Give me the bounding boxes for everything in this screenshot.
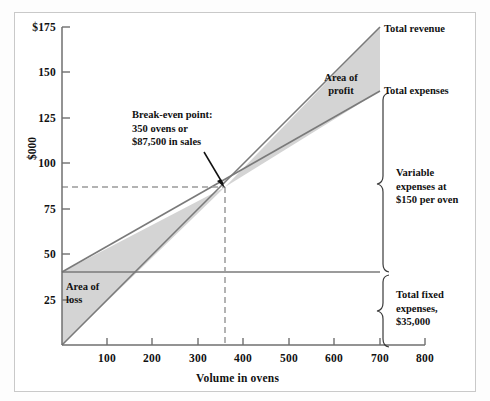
y-tick-label-150: 150 (12, 66, 56, 78)
area-of-loss-line1: Area of (66, 281, 118, 294)
variable-expenses-line3: $150 per oven (396, 193, 458, 207)
y-tick-label-25: 25 (12, 294, 56, 306)
breakeven-callout-arrow-shaft (204, 152, 223, 184)
total-fixed-expenses-label: Total fixed expenses, $35,000 (396, 288, 444, 329)
breakeven-callout-line2: 350 ovens or (132, 122, 213, 136)
x-tick-label-100: 100 (87, 352, 127, 364)
area-of-loss-label: Area of loss (66, 281, 118, 306)
x-tick-label-500: 500 (269, 352, 309, 364)
area-of-profit-line2: profit (312, 85, 370, 98)
x-axis-title: Volume in ovens (196, 372, 279, 384)
variable-expenses-brace (377, 93, 389, 272)
y-tick-label-75: 75 (12, 203, 56, 215)
total-fixed-expenses-line2: expenses, (396, 302, 444, 316)
y-axis-title: $000 (26, 137, 38, 160)
x-axis-ticks (107, 338, 425, 345)
x-tick-label-600: 600 (314, 352, 354, 364)
x-tick-label-400: 400 (223, 352, 263, 364)
variable-expenses-label: Variable expenses at $150 per oven (396, 166, 458, 207)
breakeven-callout: Break-even point: 350 ovens or $87,500 i… (132, 108, 213, 149)
total-fixed-expenses-brace (377, 275, 389, 347)
x-tick-label-300: 300 (178, 352, 218, 364)
total-fixed-expenses-line1: Total fixed (396, 288, 444, 302)
y-tick-label-125: 125 (12, 112, 56, 124)
variable-expenses-line2: expenses at (396, 180, 458, 194)
total-fixed-expenses-line3: $35,000 (396, 315, 444, 329)
y-tick-label-175: $175 (12, 21, 56, 33)
x-tick-label-200: 200 (132, 352, 172, 364)
area-of-profit-label: Area of profit (312, 72, 370, 97)
x-tick-label-700: 700 (360, 352, 400, 364)
chart-container: $175 150 125 100 75 50 25 $000 100 200 3… (0, 0, 490, 401)
breakeven-callout-line1: Break-even point: (132, 108, 213, 122)
y-tick-label-50: 50 (12, 248, 56, 260)
area-of-loss-line2: loss (66, 294, 118, 307)
total-revenue-label: Total revenue (384, 22, 445, 36)
x-tick-label-800: 800 (405, 352, 445, 364)
total-expenses-label: Total expenses (384, 84, 449, 98)
variable-expenses-line1: Variable (396, 166, 458, 180)
y-axis-ticks (62, 27, 70, 300)
breakeven-callout-line3: $87,500 in sales (132, 135, 213, 149)
area-of-profit-line1: Area of (312, 72, 370, 85)
